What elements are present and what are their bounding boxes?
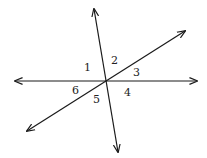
- angle-label-3: 3: [133, 66, 140, 79]
- angle-label-4: 4: [124, 86, 131, 99]
- lines-layer: [15, 9, 197, 152]
- angle-label-2: 2: [111, 54, 118, 67]
- angle-label-1: 1: [84, 61, 91, 74]
- diagram-canvas: 123456: [0, 0, 207, 158]
- angle-label-5: 5: [93, 93, 100, 106]
- angle-label-6: 6: [72, 84, 79, 97]
- intersecting-lines-diagram: 123456: [0, 0, 207, 158]
